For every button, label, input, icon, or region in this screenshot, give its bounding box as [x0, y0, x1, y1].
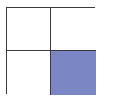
grid-cell-bottom-right-shaded	[51, 51, 96, 95]
grid-cell-bottom-left	[7, 51, 51, 95]
grid-cell-top-left	[7, 8, 51, 51]
fraction-grid	[6, 7, 95, 94]
grid-cell-top-right	[51, 8, 96, 51]
